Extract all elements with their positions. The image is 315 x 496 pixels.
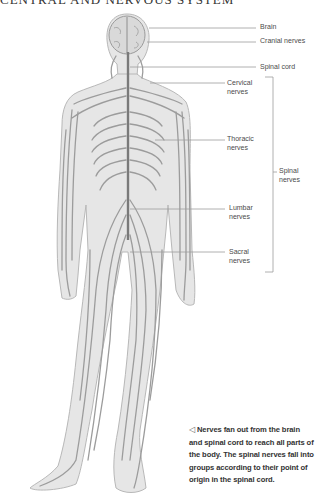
label-lumbar-line1: Lumbar bbox=[229, 204, 253, 213]
figure-caption: ◁Nerves fan out from the brain and spina… bbox=[189, 424, 314, 487]
label-thoracic-line1: Thoracic bbox=[227, 135, 254, 144]
label-cranial-nerves: Cranial nerves bbox=[260, 37, 305, 46]
label-brain: Brain bbox=[260, 23, 276, 32]
brain bbox=[109, 16, 145, 54]
label-cervical-nerves: Cervical nerves bbox=[227, 79, 252, 96]
label-lumbar-line2: nerves bbox=[229, 213, 253, 222]
label-sacral-nerves: Sacral nerves bbox=[229, 248, 250, 265]
nervous-system-illustration bbox=[0, 0, 315, 496]
label-spinal-nerves: Spinal nerves bbox=[279, 167, 300, 184]
label-thoracic-line2: nerves bbox=[227, 144, 254, 153]
body-silhouette bbox=[30, 14, 195, 493]
label-cervical-line1: Cervical bbox=[227, 79, 252, 88]
label-sacral-line1: Sacral bbox=[229, 248, 250, 257]
label-thoracic-nerves: Thoracic nerves bbox=[227, 135, 254, 152]
caption-text: Nerves fan out from the brain and spinal… bbox=[189, 425, 314, 484]
label-sacral-line2: nerves bbox=[229, 257, 250, 266]
label-lumbar-nerves: Lumbar nerves bbox=[229, 204, 253, 221]
label-cervical-line2: nerves bbox=[227, 88, 252, 97]
label-spinal-line2: nerves bbox=[279, 176, 300, 185]
label-spinal-cord: Spinal cord bbox=[260, 63, 295, 72]
left-triangle-pointer-icon: ◁ bbox=[189, 425, 195, 434]
label-spinal-line1: Spinal bbox=[279, 167, 300, 176]
